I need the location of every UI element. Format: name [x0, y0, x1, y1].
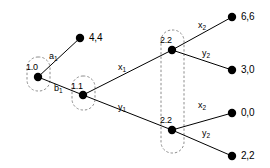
- decision-node-n-1-1: [79, 91, 87, 99]
- decision-node-n-2-2-dn: [168, 126, 176, 134]
- infoset-group: [27, 30, 184, 153]
- edge-e-a1: [38, 38, 80, 77]
- node-group: [34, 13, 236, 160]
- edge-e-b1: [38, 77, 83, 95]
- game-tree-canvas: [0, 0, 270, 168]
- terminal-node-t-2-2: [228, 152, 236, 160]
- edge-e-y1: [83, 95, 172, 130]
- edge-e-y2d: [172, 130, 232, 156]
- edge-e-x1: [83, 50, 172, 95]
- terminal-node-t-4-4: [76, 34, 84, 42]
- edge-e-x2d: [172, 113, 232, 130]
- game-tree-figure: a1b1x1y1x2y2x2y21.01.12.22.24,46,63,00,0…: [0, 0, 270, 168]
- edge-e-y2u: [172, 50, 232, 70]
- terminal-node-t-3-0: [228, 66, 236, 74]
- decision-node-root: [34, 73, 42, 81]
- terminal-node-t-0-0: [228, 109, 236, 117]
- decision-node-n-2-2-up: [168, 46, 176, 54]
- terminal-node-t-6-6: [228, 13, 236, 21]
- edge-group: [38, 17, 232, 156]
